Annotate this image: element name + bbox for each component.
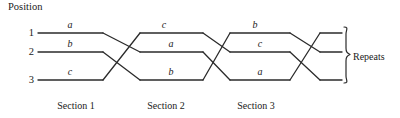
position-number-2: 2	[22, 47, 34, 58]
segment-label-s2-row3: b	[164, 67, 178, 77]
repeats-brace-icon	[344, 27, 350, 83]
segment-label-s3-row1: b	[248, 20, 262, 30]
repeats-label: Repeats	[353, 52, 385, 62]
segment-label-s2-row1: c	[157, 20, 171, 30]
segment-label-s1-row3: c	[63, 67, 77, 77]
section-caption-3: Section 3	[224, 101, 288, 111]
segment-label-s1-row1: a	[63, 20, 77, 30]
position-number-1: 1	[22, 28, 34, 39]
braid-diagram-figure: Position 1 2 3 a b c c a b b c a Section…	[0, 0, 400, 118]
segment-label-s1-row2: b	[63, 39, 77, 49]
crossing2-strand-1-to-2	[203, 33, 230, 52]
crossing3-strand-1-to-2	[290, 33, 320, 52]
position-number-3: 3	[22, 75, 34, 86]
crossing1-strand-1-to-2	[103, 33, 140, 52]
position-title: Position	[8, 2, 42, 13]
segment-label-s3-row2: c	[253, 39, 267, 49]
section-caption-2: Section 2	[134, 101, 198, 111]
segment-label-s3-row3: a	[253, 67, 267, 77]
segment-label-s2-row2: a	[164, 39, 178, 49]
section-caption-1: Section 1	[44, 101, 108, 111]
